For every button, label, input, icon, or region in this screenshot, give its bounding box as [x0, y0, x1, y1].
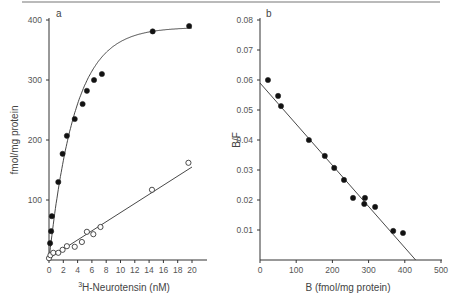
y-tick-label: 400 [28, 15, 42, 25]
y-tick-label: 100 [28, 195, 42, 205]
open-point [79, 239, 84, 244]
open-point [72, 244, 77, 249]
y-label-a: fmol/mg protein [9, 106, 20, 175]
x-tick-label: 0 [258, 265, 263, 275]
filled-point [362, 201, 367, 206]
x-tick-label: 18 [173, 265, 183, 275]
y-tick-label: 0.06 [236, 75, 253, 85]
filled-point [332, 165, 337, 170]
x-tick-label: 100 [289, 265, 303, 275]
filled-point [400, 230, 405, 235]
x-tick-label: 16 [159, 265, 169, 275]
y-tick-label: 0.01 [236, 225, 253, 235]
filled-point [49, 229, 54, 234]
x-tick-label: 14 [144, 265, 154, 275]
x-tick-label: 500 [434, 265, 448, 275]
nonspecific-fit-line [49, 167, 192, 258]
x-tick-label: 200 [325, 265, 339, 275]
open-point [91, 232, 96, 237]
y-tick-label: 0.03 [236, 165, 253, 175]
open-point [60, 247, 65, 252]
filled-point [341, 177, 346, 182]
open-point [84, 229, 89, 234]
filled-point [187, 23, 192, 28]
x-tick-label: 6 [90, 265, 95, 275]
filled-point [60, 151, 65, 156]
open-point [186, 160, 191, 165]
x-label-b: B (fmol/mg protein) [305, 282, 390, 293]
x-tick-label: 8 [104, 265, 109, 275]
open-point [98, 224, 103, 229]
y-label-b: B/F [231, 132, 242, 148]
x-tick-label: 10 [116, 265, 126, 275]
filled-point [322, 153, 327, 158]
data-points-a [46, 23, 191, 260]
x-ticks-a: 02468101214161820 [47, 260, 197, 275]
y-tick-label: 300 [28, 75, 42, 85]
filled-point [362, 195, 367, 200]
y-tick-label: 0.07 [236, 45, 253, 55]
x-label-a-text: H-Neurotensin (nM) [82, 282, 170, 293]
filled-point [72, 116, 77, 121]
y-ticks-a: 100200300400 [28, 15, 49, 205]
y-tick-label: 200 [28, 135, 42, 145]
filled-point [391, 228, 396, 233]
x-tick-label: 4 [75, 265, 80, 275]
figure: 100200300400 02468101214161820 a fmol/mg… [0, 0, 457, 301]
filled-point [56, 179, 61, 184]
filled-point [80, 101, 85, 106]
filled-point [99, 71, 104, 76]
x-tick-label: 0 [47, 265, 52, 275]
x-ticks-b: 0100200300400500 [258, 260, 449, 275]
panel-label-b: b [266, 8, 272, 19]
filled-point [91, 77, 96, 82]
filled-point [373, 204, 378, 209]
x-tick-label: 400 [398, 265, 412, 275]
filled-point [265, 77, 270, 82]
x-tick-label: 20 [187, 265, 197, 275]
filled-point [306, 137, 311, 142]
filled-point [276, 93, 281, 98]
filled-point [278, 104, 283, 109]
x-tick-label: 2 [61, 265, 66, 275]
data-points-b [265, 77, 405, 235]
open-point [64, 244, 69, 249]
filled-point [47, 241, 52, 246]
filled-point [350, 195, 355, 200]
filled-point [84, 88, 89, 93]
x-label-a: 3H-Neurotensin (nM) [78, 281, 170, 293]
chart-b: 0.010.020.030.040.050.060.070.08 0100200… [231, 8, 448, 293]
y-tick-label: 0.02 [236, 195, 253, 205]
saturation-curve [49, 28, 192, 260]
y-tick-label: 0.08 [236, 15, 253, 25]
y-ticks-b: 0.010.020.030.040.050.060.070.08 [236, 15, 260, 235]
filled-point [49, 214, 54, 219]
x-tick-label: 300 [362, 265, 376, 275]
open-point [149, 187, 154, 192]
panel-label-a: a [56, 8, 62, 19]
open-point [51, 250, 56, 255]
x-tick-label: 12 [130, 265, 140, 275]
y-tick-label: 0.05 [236, 105, 253, 115]
filled-point [150, 29, 155, 34]
chart-a: 100200300400 02468101214161820 a fmol/mg… [9, 8, 207, 293]
filled-point [64, 133, 69, 138]
